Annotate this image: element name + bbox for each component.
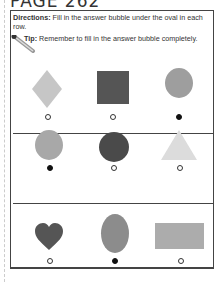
- question-row-3: [11, 203, 213, 269]
- question-row-1: [11, 11, 213, 133]
- rectangle-shape: [155, 223, 204, 249]
- worksheet: Directions: Fill in the answer bubble un…: [10, 10, 214, 269]
- margin-line: [4, 0, 5, 282]
- question-row-2: [11, 133, 213, 204]
- heart-shape: [35, 223, 63, 251]
- square-shape: [97, 71, 129, 104]
- answer-bubble[interactable]: [110, 114, 116, 120]
- oval-shape: [35, 130, 63, 160]
- answer-bubble[interactable]: [177, 165, 183, 171]
- answer-bubble[interactable]: [45, 114, 51, 120]
- answer-bubble[interactable]: [178, 258, 184, 264]
- circle-shape: [99, 132, 129, 162]
- answer-bubble-filled[interactable]: [47, 165, 53, 171]
- answer-bubble[interactable]: [47, 258, 53, 264]
- oval-shape: [101, 214, 129, 253]
- diamond-shape: [32, 70, 62, 108]
- answer-bubble-filled[interactable]: [176, 114, 182, 120]
- triangle-shape: [161, 130, 197, 160]
- answer-bubble-filled[interactable]: [112, 258, 118, 264]
- answer-bubble[interactable]: [111, 165, 117, 171]
- oval-shape: [165, 68, 193, 98]
